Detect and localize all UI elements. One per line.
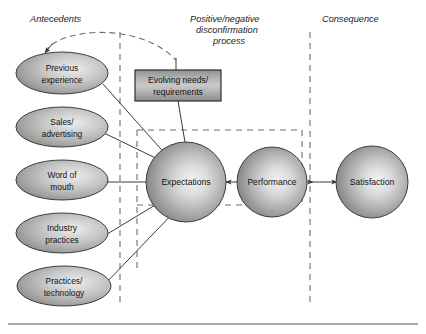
node-previous-experience[interactable]: Previous experience <box>16 52 108 94</box>
node-previous-experience-line2: experience <box>42 75 83 85</box>
header-disconfirmation-line1: Positive/negative <box>190 14 259 24</box>
diagram-canvas: Antecedents Positive/negative disconfirm… <box>0 0 426 334</box>
node-industry-practices[interactable]: Industry practices <box>16 213 108 253</box>
node-word-of-mouth-line1: Word of <box>47 170 77 180</box>
header-disconfirmation-line2: disconfirmation <box>196 25 258 35</box>
node-expectations-label: Expectations <box>161 177 210 187</box>
header-consequence: Consequence <box>322 14 379 24</box>
node-evolving-needs[interactable]: Evolving needs/ requirements <box>135 70 221 101</box>
header-disconfirmation-line3: process <box>212 36 246 46</box>
node-industry-practices-line1: Industry <box>47 223 78 233</box>
node-word-of-mouth-line2: mouth <box>50 182 74 192</box>
header-antecedents: Antecedents <box>29 14 81 24</box>
connector-evolving-needs-to-expectations <box>178 101 186 148</box>
node-sales-advertising-line2: advertising <box>42 129 83 139</box>
node-practices-technology[interactable]: Practices/ technology <box>17 266 111 306</box>
node-practices-technology-line2: technology <box>44 288 85 298</box>
node-satisfaction-label: Satisfaction <box>350 177 395 187</box>
node-expectations[interactable]: Expectations <box>146 142 226 222</box>
connector-practices-technology <box>104 208 178 285</box>
node-previous-experience-line1: Previous <box>46 63 79 73</box>
diagram-svg: Antecedents Positive/negative disconfirm… <box>0 0 426 334</box>
node-sales-advertising[interactable]: Sales/ advertising <box>16 107 108 147</box>
node-performance[interactable]: Performance <box>237 147 307 217</box>
node-evolving-needs-line2: requirements <box>153 87 203 97</box>
node-sales-advertising-line1: Sales/ <box>50 117 74 127</box>
node-practices-technology-line1: Practices/ <box>46 276 83 286</box>
node-industry-practices-line2: practices <box>45 235 79 245</box>
node-satisfaction[interactable]: Satisfaction <box>336 146 408 218</box>
node-word-of-mouth[interactable]: Word of mouth <box>16 160 108 200</box>
node-performance-label: Performance <box>247 177 296 187</box>
node-evolving-needs-line1: Evolving needs/ <box>148 75 209 85</box>
